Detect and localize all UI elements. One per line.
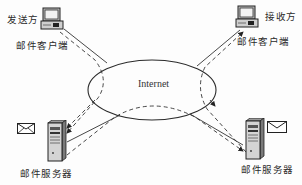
internet-to-receiver-server-line [190,114,243,145]
internet-label: Internet [138,78,169,89]
internet-cloud [88,60,216,120]
internet-to-receiver-client-line [197,30,240,66]
sender-role-label: 发送方 [7,12,39,26]
receiver-server-to-client-dashed [200,32,246,152]
sender-computer-icon [40,7,64,31]
receiver-client-label: 邮件客户端 [237,34,290,48]
sender-client-to-internet-line [64,29,107,63]
receiver-server-label: 邮件服务器 [241,162,294,176]
sender-server-label: 邮件服务器 [20,166,73,180]
receiver-computer-icon [235,5,259,29]
sender-envelope-icon [17,123,35,134]
email-network-diagram: 发送方 邮件客户端 接收方 邮件客户端 Internet 邮件服务器 [0,0,302,185]
internet-to-sender-server-dashed [67,100,95,128]
receiver-envelope-icon [267,121,287,133]
sender-server-icon [45,120,67,162]
receiver-server-icon [243,118,265,160]
receiver-role-label: 接收方 [265,9,297,23]
server-to-server-dashed [67,106,243,155]
sender-client-label: 邮件客户端 [16,38,69,52]
